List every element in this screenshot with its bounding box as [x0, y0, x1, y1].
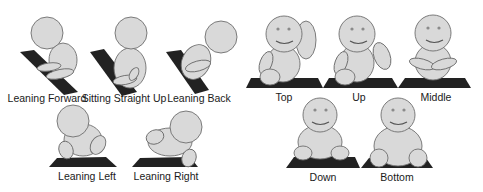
figure-up: [323, 16, 398, 88]
figure-sitting-straight-up: [90, 17, 147, 96]
label-top: Top: [276, 91, 293, 103]
label-bottom: Bottom: [380, 171, 413, 183]
label-leaning-left: Leaning Left: [58, 170, 116, 182]
figure-leaning-back: [166, 21, 237, 94]
label-sitting-straight-up: Sitting Straight Up: [82, 92, 167, 104]
figure-bottom: [361, 98, 433, 168]
figure-leaning-left: [49, 105, 117, 167]
figure-down: [286, 98, 360, 168]
label-leaning-forward: Leaning Forward: [8, 92, 87, 104]
label-leaning-right: Leaning Right: [134, 170, 199, 182]
figure-leaning-right: [132, 111, 202, 169]
label-down: Down: [310, 171, 337, 183]
label-up: Up: [352, 91, 365, 103]
label-middle: Middle: [421, 91, 452, 103]
figure-middle: [398, 15, 471, 88]
figure-top: [246, 16, 323, 88]
figure-leaning-forward: [20, 17, 78, 95]
label-leaning-back: Leaning Back: [167, 92, 231, 104]
